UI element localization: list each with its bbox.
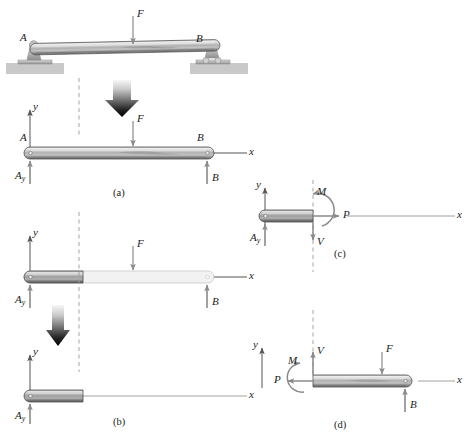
label-f-pictorial: F <box>137 8 144 19</box>
figure-canvas <box>0 0 469 437</box>
label-f-d: F <box>386 343 393 354</box>
label-axis-x-b-lower: x <box>249 389 254 400</box>
label-axis-x-d: x <box>457 374 462 385</box>
moment-arc-m-c <box>313 193 334 226</box>
label-f-b-upper: F <box>137 238 144 249</box>
panel-c <box>259 180 455 272</box>
caption-a: (a) <box>113 187 125 198</box>
figure-root: A B F y x A B F Ay B (a) y x F Ay B y x … <box>0 0 469 437</box>
label-v-d: V <box>317 345 324 356</box>
label-ay-b-lower: Ay <box>15 410 25 423</box>
label-b-reaction-fbd-a: B <box>212 172 219 183</box>
panel-b-lower <box>24 355 247 424</box>
label-m-c: M <box>317 186 326 197</box>
label-ay-c: Ay <box>250 232 260 245</box>
label-m-d: M <box>288 355 297 366</box>
label-ay-b-upper: Ay <box>15 294 25 307</box>
label-axis-x-b-upper: x <box>249 270 254 281</box>
beam-solid-left-b <box>24 271 83 283</box>
label-f-fbd-a: F <box>137 113 144 124</box>
transition-arrow-a <box>105 80 139 117</box>
label-a-fbd: A <box>20 132 27 143</box>
beam-segment-c <box>259 210 313 222</box>
beam-fbd-a <box>24 147 214 159</box>
label-b-fbd: B <box>197 132 204 143</box>
label-axis-x-c: x <box>457 209 462 220</box>
label-a-pictorial: A <box>20 32 27 43</box>
caption-d: (d) <box>334 419 346 430</box>
label-v-c: V <box>317 236 324 247</box>
moment-arc-m-d <box>287 363 304 392</box>
label-axis-y-b-lower: y <box>33 346 38 357</box>
beam-segment-d <box>313 375 412 387</box>
label-b-pictorial: B <box>196 33 203 44</box>
transition-arrow-b <box>46 305 70 346</box>
beam-segment-left-b <box>24 390 83 402</box>
ground-block-right <box>190 63 248 74</box>
label-axis-y-b-upper: y <box>33 227 38 238</box>
panel-a-pictorial <box>6 16 248 74</box>
label-p-c: P <box>343 209 350 220</box>
label-ay-fbd-a: Ay <box>15 170 25 183</box>
caption-c: (c) <box>334 248 346 259</box>
beam-ghost-pin-b <box>206 275 209 278</box>
label-axis-y-c: y <box>256 179 261 190</box>
label-axis-x-a: x <box>249 146 254 157</box>
label-b-reaction-b-upper: B <box>212 296 219 307</box>
label-b-reaction-d: B <box>410 399 417 410</box>
label-axis-y-d: y <box>253 339 258 350</box>
label-p-d: P <box>274 374 281 385</box>
beam-pictorial <box>30 39 220 54</box>
ground-block-left <box>6 63 64 74</box>
label-axis-y-a: y <box>33 101 38 112</box>
caption-b: (b) <box>113 416 125 427</box>
